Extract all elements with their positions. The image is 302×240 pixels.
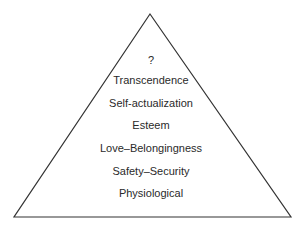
pyramid-level-esteem: Esteem (0, 118, 302, 132)
pyramid-level-self-actualization: Self-actualization (0, 96, 302, 110)
pyramid-level-love-belongingness: Love–Belongingness (0, 141, 302, 155)
pyramid-level-unknown: ? (0, 53, 302, 67)
pyramid-level-physiological: Physiological (0, 186, 302, 200)
pyramid-level-safety-security: Safety–Security (0, 164, 302, 178)
pyramid-level-transcendence: Transcendence (0, 73, 302, 87)
